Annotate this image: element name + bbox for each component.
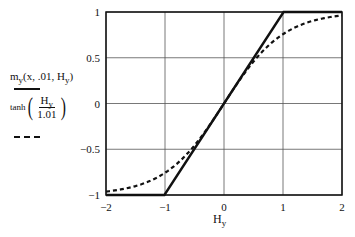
x-tick-label: −2 [100, 201, 112, 213]
legend-1-args-sub: y [65, 75, 70, 85]
x-tick-label: −1 [159, 201, 171, 213]
legend-2-num: H [41, 94, 49, 106]
y-tick-label: 0.5 [86, 52, 100, 64]
legend-2-fraction: Hy 1.01 [35, 94, 58, 120]
legend-1-args: (x, .01, H [23, 70, 65, 82]
y-tick-labels: 10.50−0.5−1 [80, 6, 100, 201]
legend-1-func: m [10, 70, 19, 82]
legend-1-close: ) [69, 70, 73, 82]
legend-series-2-label: tanh ( Hy 1.01 ) [10, 94, 68, 120]
x-tick-label: 2 [339, 201, 345, 213]
legend-2-open-paren: ( [27, 94, 32, 120]
legend-1-sub: y [19, 75, 24, 85]
y-tick-label: 1 [95, 6, 101, 18]
legend-2-close-paren: ) [61, 94, 66, 120]
x-axis-label-sub: y [222, 218, 227, 228]
legend-2-den: 1.01 [35, 108, 58, 120]
y-tick-label: −1 [88, 189, 100, 201]
legend-dashed-line-swatch [14, 136, 40, 138]
x-axis-label-main: H [213, 212, 222, 226]
legend-2-num-sub: y [49, 99, 54, 109]
legend-series-1-label: my(x, .01, Hy) [10, 70, 73, 82]
legend-solid-line-swatch [14, 88, 40, 90]
y-tick-label: 0 [95, 98, 101, 110]
legend-2-func: tanh [10, 102, 26, 112]
y-tick-label: −0.5 [80, 143, 100, 155]
x-tick-label: 1 [280, 201, 286, 213]
x-axis-label: Hy [213, 212, 226, 227]
